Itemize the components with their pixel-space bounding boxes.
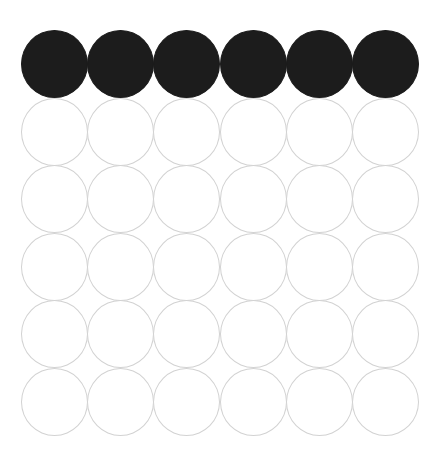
empty-circle	[21, 368, 88, 436]
empty-circle	[153, 368, 220, 436]
filled-circle	[220, 30, 287, 98]
empty-circle	[286, 233, 353, 301]
empty-circle	[21, 300, 88, 368]
empty-circle	[153, 300, 220, 368]
empty-circle	[87, 300, 154, 368]
empty-circle	[352, 233, 419, 301]
empty-circle	[153, 165, 220, 233]
empty-circle	[21, 98, 88, 166]
circle-grid	[0, 0, 441, 461]
filled-circle	[153, 30, 220, 98]
empty-circle	[286, 98, 353, 166]
empty-circle	[21, 165, 88, 233]
empty-circle	[220, 300, 287, 368]
filled-circle	[352, 30, 419, 98]
empty-circle	[220, 233, 287, 301]
empty-circle	[286, 368, 353, 436]
empty-circle	[286, 300, 353, 368]
empty-circle	[87, 233, 154, 301]
empty-circle	[87, 165, 154, 233]
empty-circle	[21, 233, 88, 301]
empty-circle	[87, 368, 154, 436]
empty-circle	[352, 300, 419, 368]
empty-circle	[220, 368, 287, 436]
empty-circle	[352, 98, 419, 166]
filled-circle	[286, 30, 353, 98]
empty-circle	[220, 98, 287, 166]
empty-circle	[352, 368, 419, 436]
empty-circle	[153, 98, 220, 166]
filled-circle	[87, 30, 154, 98]
empty-circle	[153, 233, 220, 301]
empty-circle	[87, 98, 154, 166]
empty-circle	[352, 165, 419, 233]
filled-circle	[21, 30, 88, 98]
empty-circle	[286, 165, 353, 233]
empty-circle	[220, 165, 287, 233]
